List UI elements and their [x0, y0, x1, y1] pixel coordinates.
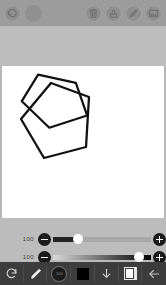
back-arrow-icon[interactable] [142, 262, 166, 285]
pencil-icon[interactable] [125, 5, 142, 22]
current-color-swatch: 100 [52, 267, 66, 281]
opacity-slider-knob[interactable] [73, 234, 83, 244]
opacity-slider-track[interactable] [53, 237, 151, 242]
opacity-slider-row: 100 [0, 230, 166, 248]
canvas-artwork [2, 66, 164, 218]
drawing-canvas[interactable] [2, 66, 164, 218]
rotate-icon[interactable] [0, 262, 24, 285]
opacity-value-label: 100 [0, 236, 38, 242]
top-toolbar-left-group [4, 5, 42, 22]
opacity-decrease-button[interactable] [38, 233, 51, 246]
download-icon[interactable] [95, 262, 119, 285]
top-toolbar [0, 0, 166, 26]
layers-active-indicator [124, 267, 137, 280]
top-toolbar-right-group [85, 5, 162, 22]
stamp-icon[interactable] [105, 5, 122, 22]
slider-panel: 100 100 [0, 218, 166, 262]
brush-size-slider-track[interactable] [53, 255, 151, 260]
fill-swatch-icon[interactable] [71, 262, 95, 285]
image-icon[interactable] [145, 5, 162, 22]
trash-icon[interactable] [85, 5, 102, 22]
pentagon-shape [22, 75, 87, 128]
pentagon-shape-main [21, 83, 89, 158]
bottom-toolbar: 100 [0, 262, 166, 285]
toolbar-spacer-band [0, 26, 166, 66]
fill-color-square [77, 268, 89, 280]
brush-size-value-label: 100 [0, 254, 38, 260]
brush-icon[interactable] [24, 262, 48, 285]
undo-icon[interactable] [4, 5, 21, 22]
color-picker-icon[interactable]: 100 [47, 262, 71, 285]
drawing-app: 100 100 [0, 0, 166, 285]
opacity-increase-button[interactable] [153, 233, 166, 246]
layers-icon[interactable] [119, 262, 143, 285]
brush-size-slider-knob[interactable] [134, 252, 144, 262]
color-blob[interactable] [25, 5, 42, 22]
